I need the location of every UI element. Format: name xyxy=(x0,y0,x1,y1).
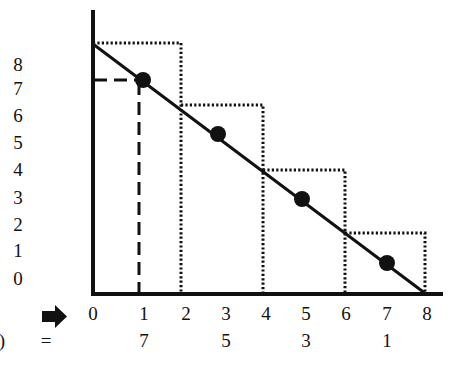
y-tick-label: 7 xyxy=(8,79,28,98)
dashed-guide xyxy=(94,80,142,294)
midpoint-dot-3 xyxy=(210,126,226,142)
y-tick-label: 4 xyxy=(8,160,28,179)
right-arrow-icon xyxy=(42,305,67,328)
x-tick-label: 4 xyxy=(256,304,276,323)
x-tick-label: 0 xyxy=(83,304,103,323)
y-tick-label: 0 xyxy=(8,269,28,288)
x-tick-label: 5 xyxy=(296,304,316,323)
x-tick-label: 2 xyxy=(176,304,196,323)
y-tick-label: 1 xyxy=(8,241,28,260)
y-tick-label: 6 xyxy=(8,106,28,125)
x-tick-label: 7 xyxy=(377,304,397,323)
x-tick-label: 3 xyxy=(216,304,236,323)
y-tick-label: 8 xyxy=(8,55,28,74)
x-tick-label: 8 xyxy=(417,304,437,323)
rectangle-3 xyxy=(263,170,345,294)
x-tick-label: 6 xyxy=(336,304,356,323)
y-tick-label: 2 xyxy=(8,215,28,234)
f-value: 3 xyxy=(296,331,316,350)
midpoint-dot-5 xyxy=(294,191,310,207)
y-tick-label: 3 xyxy=(8,188,28,207)
x-tick-label: 1 xyxy=(134,304,154,323)
f-value: 7 xyxy=(134,331,154,350)
equals-sign: = xyxy=(36,331,56,350)
midpoint-dot-7 xyxy=(379,255,395,271)
row-prefix: ) xyxy=(0,331,12,350)
midpoint-dot-1 xyxy=(135,72,151,88)
f-value: 1 xyxy=(377,331,397,350)
y-tick-label: 5 xyxy=(8,133,28,152)
f-value: 5 xyxy=(216,331,236,350)
